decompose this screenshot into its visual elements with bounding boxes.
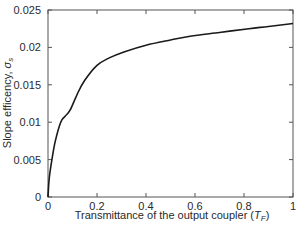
plot-border <box>48 10 293 197</box>
data-line <box>48 23 293 197</box>
plot-area <box>48 10 293 197</box>
x-tick-label: 1 <box>290 200 296 212</box>
y-tick-label: 0.025 <box>13 4 41 16</box>
x-tick-label: 0 <box>45 200 51 212</box>
y-tick-label: 0.02 <box>20 41 41 53</box>
y-tick-label: 0.005 <box>13 154 41 166</box>
y-tick-label: 0.01 <box>20 116 41 128</box>
y-tick-label: 0 <box>35 191 41 203</box>
slope-efficiency-chart: 00.20.40.60.81 00.0050.010.0150.020.025 … <box>0 0 297 228</box>
y-tick-label: 0.015 <box>13 79 41 91</box>
x-axis-title: Transmittance of the output coupler (TF) <box>75 209 270 223</box>
y-tick-labels: 00.0050.010.0150.020.025 <box>13 4 41 203</box>
axis-ticks <box>48 10 293 197</box>
y-axis-title: Slope efficency, σs <box>1 58 15 148</box>
